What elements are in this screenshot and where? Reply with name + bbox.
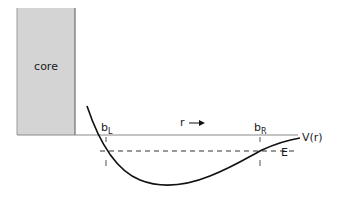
left-turning-point-label: bL (101, 121, 113, 136)
r-axis-label: r (180, 116, 185, 129)
arrow-right-icon (199, 120, 205, 126)
core-block: core (17, 8, 75, 135)
right-turning-point-label: bR (254, 121, 267, 136)
core-label: core (34, 60, 58, 73)
r-direction-indicator: r (180, 116, 205, 129)
energy-label: E (281, 146, 288, 159)
potential-well-diagram: core bL bR r V(r) E (0, 0, 338, 197)
potential-label: V(r) (302, 131, 323, 144)
potential-curve (87, 106, 300, 185)
